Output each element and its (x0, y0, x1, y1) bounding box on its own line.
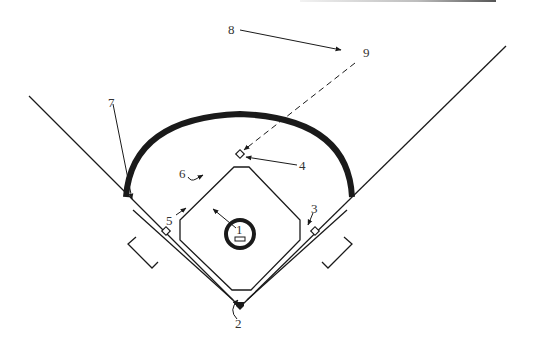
pitchers-rubber (235, 237, 245, 241)
leader-5 (176, 208, 186, 215)
home-plate (236, 302, 244, 310)
label-4: 4 (299, 158, 306, 173)
third-base (162, 227, 170, 235)
leader-7 (113, 104, 132, 199)
baseball-field-diagram: 8 9 7 4 6 5 3 1 2 (0, 0, 535, 345)
first-base-coach-box (322, 237, 352, 268)
second-base (236, 150, 244, 158)
left-baseline-inner (133, 210, 233, 300)
label-5: 5 (166, 213, 173, 228)
leader-6 (188, 175, 203, 180)
leader-8 (240, 30, 341, 50)
right-baseline-inner (247, 210, 347, 300)
label-9: 9 (363, 45, 370, 60)
label-6: 6 (179, 166, 186, 181)
leader-9-dashed (244, 63, 355, 150)
right-foul-line (240, 46, 506, 307)
label-8: 8 (228, 22, 235, 37)
leader-1 (213, 209, 236, 228)
leader-4 (246, 157, 297, 165)
label-7: 7 (108, 95, 115, 110)
label-1: 1 (236, 222, 243, 237)
first-base (311, 227, 319, 235)
foul-lines (29, 46, 506, 307)
label-2: 2 (235, 316, 242, 331)
left-foul-line (29, 96, 240, 307)
label-3: 3 (311, 201, 318, 216)
third-base-coach-box (128, 237, 158, 268)
